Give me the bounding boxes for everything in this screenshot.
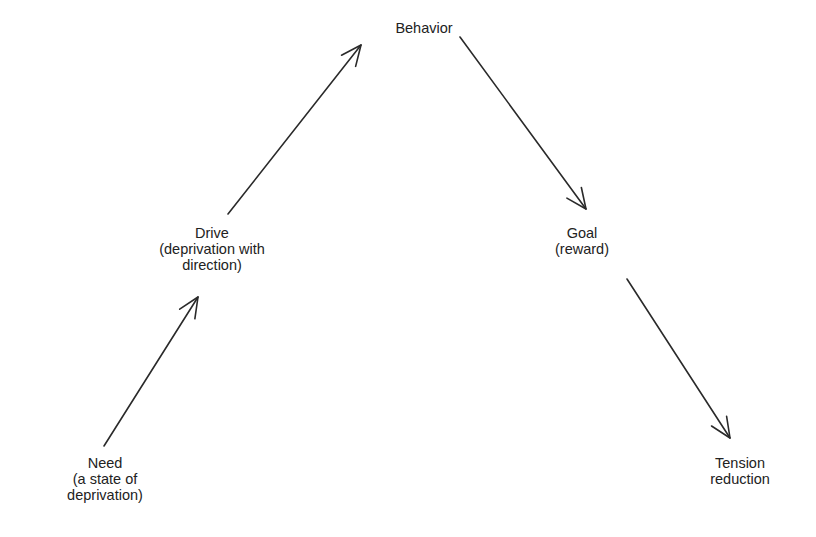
arrow-goal-to-tension — [627, 279, 730, 438]
node-goal: Goal (reward) — [555, 225, 609, 257]
arrow-shaft — [460, 37, 586, 209]
arrow-need-to-drive — [104, 297, 198, 446]
node-need-desc-1: (a state of — [67, 471, 143, 487]
node-drive: Drive (deprivation with direction) — [159, 225, 265, 273]
node-tension-reduction: Tension reduction — [710, 455, 770, 487]
arrow-shaft — [104, 297, 198, 446]
node-behavior: Behavior — [395, 20, 452, 36]
diagram-canvas: Need (a state of deprivation) Drive (dep… — [0, 0, 816, 537]
arrow-shaft — [228, 45, 361, 214]
node-tension-title-2: reduction — [710, 471, 770, 487]
arrow-shaft — [627, 279, 730, 438]
node-tension-title-1: Tension — [710, 455, 770, 471]
node-need-title: Need — [67, 455, 143, 471]
node-drive-desc-1: (deprivation with — [159, 241, 265, 257]
node-drive-title: Drive — [159, 225, 265, 241]
node-need-desc-2: deprivation) — [67, 487, 143, 503]
node-goal-title: Goal — [555, 225, 609, 241]
node-need: Need (a state of deprivation) — [67, 455, 143, 503]
node-goal-desc: (reward) — [555, 241, 609, 257]
node-drive-desc-2: direction) — [159, 257, 265, 273]
node-behavior-title: Behavior — [395, 20, 452, 36]
arrow-behavior-to-goal — [460, 37, 586, 209]
arrow-drive-to-behavior — [228, 45, 361, 214]
